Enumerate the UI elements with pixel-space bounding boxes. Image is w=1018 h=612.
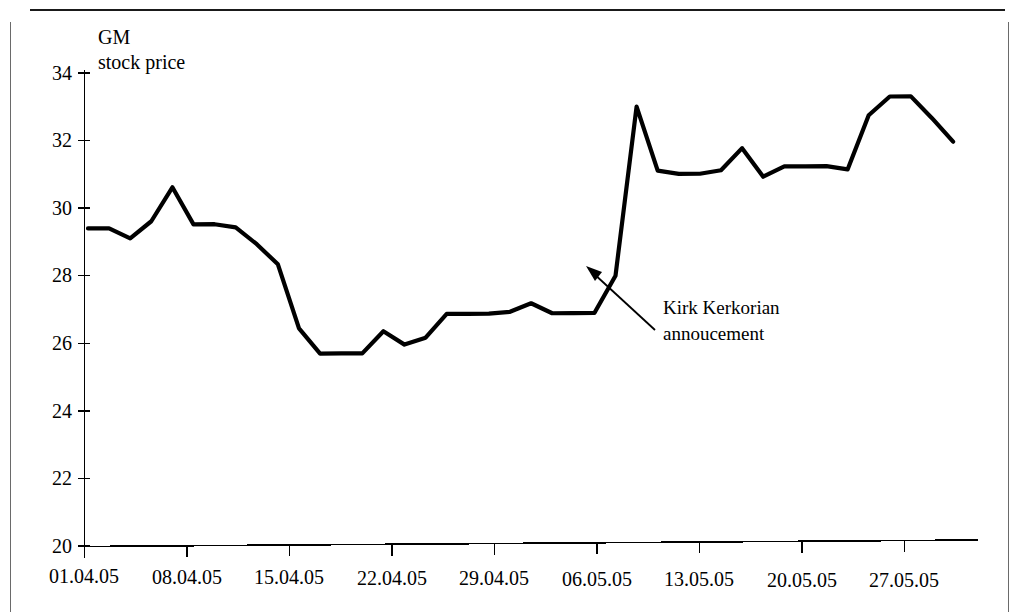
annotation-label-line-2: annoucement — [663, 321, 780, 347]
stock-price-chart: GM stock price 34 32 30 28 26 24 22 20 0… — [0, 0, 1018, 612]
chart-title-line-1: GM — [98, 25, 185, 50]
x-axis-line — [85, 540, 979, 547]
y-tick-label-34: 34 — [30, 62, 72, 85]
chart-title-line-2: stock price — [98, 50, 185, 75]
chart-title: GM stock price — [98, 25, 185, 75]
y-tick-label-32: 32 — [30, 129, 72, 152]
stock-price-series-line — [88, 96, 953, 353]
annotation-label: Kirk Kerkorian annoucement — [663, 295, 780, 346]
annotation-label-line-1: Kirk Kerkorian — [663, 295, 780, 321]
y-tick-label-30: 30 — [30, 197, 72, 220]
y-tick-label-22: 22 — [30, 467, 72, 490]
annotation-arrow — [586, 266, 655, 330]
x-tick-label-27-05-05: 27.05.05 — [839, 569, 969, 592]
page-canvas: GM stock price 34 32 30 28 26 24 22 20 0… — [0, 0, 1018, 612]
y-tick-label-28: 28 — [30, 264, 72, 287]
y-tick-label-26: 26 — [30, 332, 72, 355]
chart-plot-svg — [0, 0, 1018, 612]
y-tick-label-20: 20 — [30, 535, 72, 558]
y-tick-label-24: 24 — [30, 400, 72, 423]
